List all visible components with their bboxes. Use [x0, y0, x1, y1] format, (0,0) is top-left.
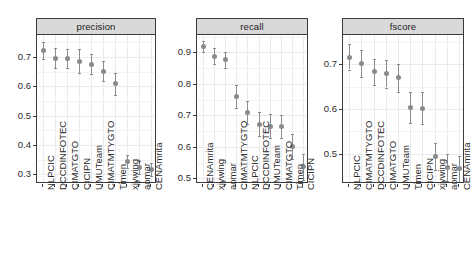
error-bar-cap-lower	[385, 88, 388, 89]
error-bar-cap-lower	[235, 108, 238, 109]
panel-strip-fscore: fscore	[342, 18, 464, 35]
y-tick-mark	[339, 64, 342, 65]
error-bar-cap-lower	[66, 68, 69, 69]
error-bar-cap-upper	[90, 54, 93, 55]
x-tick-mark	[54, 184, 55, 187]
x-tick-mark	[138, 184, 139, 187]
x-tick-mark	[213, 184, 214, 187]
error-bar-cap-upper	[348, 44, 351, 45]
y-tick-mark	[33, 174, 36, 175]
x-tick-label-CIMATGTO: CIMATGTO	[388, 141, 398, 190]
x-tick-label-CIMATMTYGTO: CIMATMTYGTO	[239, 121, 249, 190]
x-tick-mark	[421, 184, 422, 187]
error-bar-cap-upper	[397, 64, 400, 65]
panel-strip-label: recall	[240, 22, 263, 32]
x-tick-label-CIMATMTYGTO: CIMATMTYGTO	[106, 121, 116, 190]
x-tick-label-CIMATGTO: CIMATGTO	[70, 141, 80, 190]
data-point	[77, 59, 82, 64]
panel-strip-recall: recall	[196, 18, 308, 35]
x-tick-mark	[246, 184, 247, 187]
x-tick-mark	[78, 184, 79, 187]
y-tick-mark	[33, 57, 36, 58]
data-point	[234, 94, 239, 99]
error-bar-cap-upper	[269, 114, 272, 115]
x-tick-mark	[458, 184, 459, 187]
x-tick-label-CIMATMTYGTO: CIMATMTYGTO	[364, 121, 374, 190]
x-tick-mark	[150, 184, 151, 187]
x-tick-mark	[102, 184, 103, 187]
gridline-vertical	[151, 35, 152, 182]
error-bar-cap-upper	[302, 154, 305, 155]
error-bar-cap-upper	[42, 42, 45, 43]
x-axis-recall: CENAmritaxjywingaomarCIMATMTYGTONLPCICDC…	[196, 190, 308, 278]
y-tick-label: 0.7	[18, 52, 31, 62]
error-bar-cap-lower	[409, 123, 412, 124]
error-bar-cap-lower	[202, 52, 205, 53]
x-tick-mark	[434, 184, 435, 187]
error-bar-cap-lower	[348, 70, 351, 71]
error-bar-cap-upper	[66, 49, 69, 50]
error-bar-cap-upper	[360, 50, 363, 51]
x-tick-mark	[291, 184, 292, 187]
error-bar-cap-lower	[360, 77, 363, 78]
x-tick-mark	[280, 184, 281, 187]
gridline-vertical	[398, 35, 399, 182]
x-tick-mark	[360, 184, 361, 187]
y-tick-label: 0.8	[178, 79, 191, 89]
data-point	[396, 75, 401, 80]
x-tick-mark	[397, 184, 398, 187]
error-bar-cap-upper	[213, 48, 216, 49]
error-bar-cap-upper	[385, 60, 388, 61]
y-tick-mark	[193, 147, 196, 148]
error-bar-cap-upper	[409, 92, 412, 93]
x-tick-mark	[202, 184, 203, 187]
y-axis-precision: 0.30.40.50.60.7	[0, 35, 36, 183]
y-tick-mark	[193, 115, 196, 116]
data-point	[201, 44, 206, 49]
y-tick-mark	[33, 86, 36, 87]
x-tick-mark	[42, 184, 43, 187]
error-bar-cap-lower	[102, 81, 105, 82]
facet-panel-precision: precision0.30.40.50.60.7NLPCICDCCDINFOTE…	[0, 0, 156, 279]
error-bar-cap-lower	[78, 73, 81, 74]
error-bar-cap-upper	[434, 143, 437, 144]
x-tick-mark	[114, 184, 115, 187]
y-tick-mark	[339, 109, 342, 110]
x-tick-mark	[373, 184, 374, 187]
y-tick-label: 0.7	[324, 59, 337, 69]
x-tick-mark	[269, 184, 270, 187]
error-bar-cap-lower	[114, 95, 117, 96]
data-point	[212, 54, 217, 59]
x-tick-label-CENAmrita: CENAmrita	[205, 142, 215, 190]
data-point	[223, 57, 228, 62]
error-bar-cap-upper	[126, 155, 129, 156]
x-tick-label-DCCDINFOTEC: DCCDINFOTEC	[58, 121, 68, 190]
y-tick-mark	[193, 52, 196, 53]
data-point	[245, 110, 250, 115]
error-bar-cap-lower	[280, 138, 283, 139]
y-tick-mark	[193, 178, 196, 179]
x-tick-mark	[409, 184, 410, 187]
y-tick-label: 0.6	[18, 82, 31, 92]
error-bar-cap-lower	[42, 59, 45, 60]
data-point	[372, 69, 377, 74]
error-bar-cap-lower	[54, 68, 57, 69]
x-tick-mark	[446, 184, 447, 187]
x-tick-mark	[302, 184, 303, 187]
panel-strip-label: fscore	[390, 22, 416, 32]
y-tick-mark	[339, 154, 342, 155]
x-tick-mark	[235, 184, 236, 187]
facet-panel-fscore: fscore0.50.60.7NLPCICCIMATMTYGTODCCDINFO…	[312, 0, 464, 279]
data-point	[41, 48, 46, 53]
error-bar-cap-lower	[213, 64, 216, 65]
error-bar-cap-upper	[421, 92, 424, 93]
x-axis-precision: NLPCICDCCDINFOTECCIMATGTOCICIPNUMUTeamCI…	[36, 190, 156, 278]
error-bar-cap-upper	[291, 134, 294, 135]
error-bar-cap-upper	[202, 41, 205, 42]
y-tick-label: 0.3	[18, 169, 31, 179]
x-tick-mark	[348, 184, 349, 187]
x-tick-mark	[385, 184, 386, 187]
error-bar-cap-upper	[373, 59, 376, 60]
y-tick-label: 0.4	[18, 140, 31, 150]
